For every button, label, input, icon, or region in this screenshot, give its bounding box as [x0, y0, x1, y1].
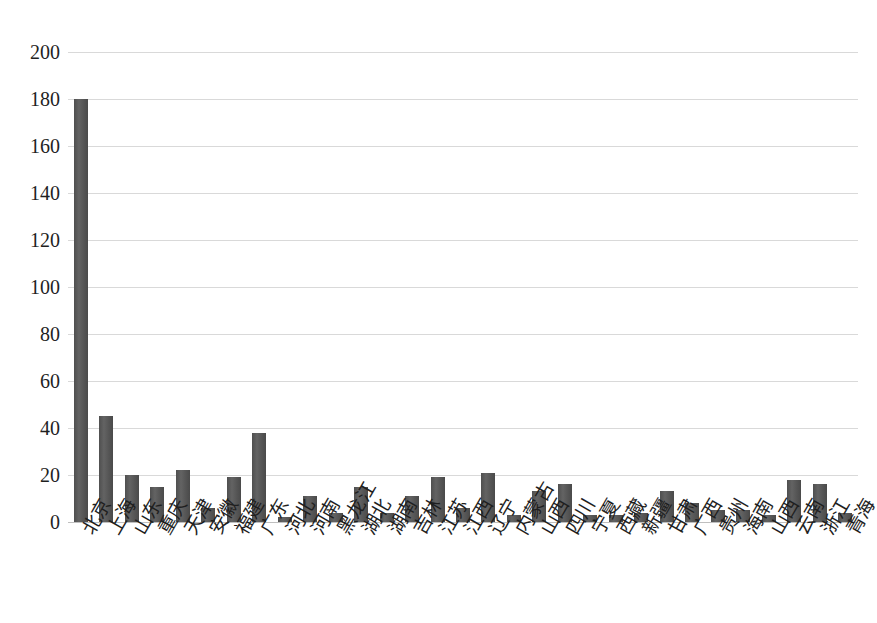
y-axis-tick-label: 160: [0, 135, 60, 158]
bar-slot: [323, 52, 348, 522]
y-axis-tick-label: 0: [0, 511, 60, 534]
bar-slot: [654, 52, 679, 522]
y-axis-tick-label: 120: [0, 229, 60, 252]
bar: [74, 99, 88, 522]
bar-slot: [731, 52, 756, 522]
bar-slot: [705, 52, 730, 522]
bar-slot: [680, 52, 705, 522]
bar-slot: [578, 52, 603, 522]
bars: [68, 52, 858, 522]
bar-chart: 020406080100120140160180200 北京上海山东重庆天津安徽…: [0, 0, 877, 623]
y-axis-tick-label: 180: [0, 88, 60, 111]
bar-slot: [348, 52, 373, 522]
bar-slot: [603, 52, 628, 522]
bar-slot: [501, 52, 526, 522]
bar-slot: [374, 52, 399, 522]
y-axis: 020406080100120140160180200: [0, 52, 60, 522]
y-axis-tick-label: 80: [0, 323, 60, 346]
bar-slot: [450, 52, 475, 522]
bar-slot: [221, 52, 246, 522]
bar-slot: [272, 52, 297, 522]
bar-slot: [119, 52, 144, 522]
bar-slot: [527, 52, 552, 522]
y-axis-tick-label: 40: [0, 417, 60, 440]
bar-slot: [170, 52, 195, 522]
y-axis-tick-label: 200: [0, 41, 60, 64]
bar-slot: [93, 52, 118, 522]
bar-slot: [68, 52, 93, 522]
bar-slot: [552, 52, 577, 522]
plot-area: [68, 52, 858, 522]
bar-slot: [195, 52, 220, 522]
y-axis-tick-label: 60: [0, 370, 60, 393]
bar-slot: [144, 52, 169, 522]
y-axis-tick-label: 140: [0, 182, 60, 205]
bar-slot: [629, 52, 654, 522]
bar-slot: [756, 52, 781, 522]
bar-slot: [399, 52, 424, 522]
bar-slot: [807, 52, 832, 522]
bar-slot: [425, 52, 450, 522]
bar-slot: [297, 52, 322, 522]
y-axis-tick-label: 100: [0, 276, 60, 299]
x-axis-category-labels: 北京上海山东重庆天津安徽福建广东河北河南黑龙江湖北湖南吉林江苏江西辽宁内蒙古山西…: [68, 524, 858, 623]
y-axis-tick-label: 20: [0, 464, 60, 487]
bar-slot: [782, 52, 807, 522]
bar-slot: [476, 52, 501, 522]
bar-slot: [246, 52, 271, 522]
bar-slot: [833, 52, 858, 522]
